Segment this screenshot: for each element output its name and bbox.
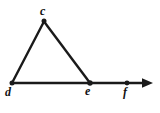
geometry-canvas: [0, 0, 160, 113]
vertex-label-f: f: [123, 86, 127, 98]
vertex-label-c: c: [40, 5, 45, 17]
segment-ce-line: [44, 22, 90, 84]
vertex-point-c: [42, 19, 47, 24]
geometry-figure: c d e f: [0, 0, 160, 113]
vertex-label-d: d: [5, 86, 11, 98]
segment-cd-line: [12, 22, 44, 84]
right-arrow-icon: [142, 78, 153, 88]
vertex-label-e: e: [85, 85, 90, 97]
